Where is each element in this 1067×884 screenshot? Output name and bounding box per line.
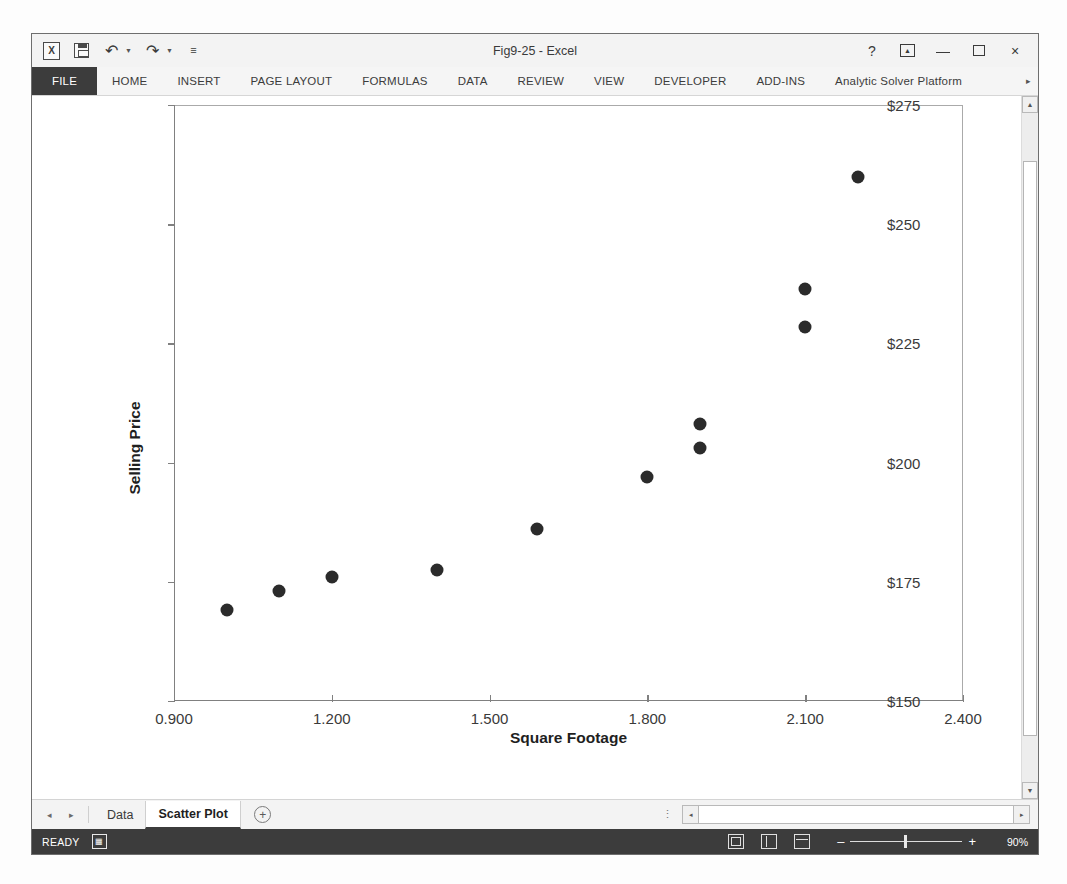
vertical-scroll-track[interactable]	[1022, 113, 1038, 782]
worksheet-area: Selling Price Square Footage $150$175$20…	[32, 96, 1038, 799]
normal-view-icon[interactable]	[728, 834, 744, 849]
ribbon-tab-insert[interactable]: INSERT	[162, 67, 235, 95]
zoom-slider-thumb[interactable]	[904, 835, 907, 848]
zoom-level-label[interactable]: 90%	[1002, 836, 1028, 848]
zoom-in-button[interactable]: +	[968, 835, 976, 848]
ribbon-tab-analytic-solver-platform[interactable]: Analytic Solver Platform	[820, 67, 977, 95]
undo-dropdown-icon[interactable]: ▼	[125, 47, 132, 54]
x-axis-tick-label: 1.800	[629, 710, 667, 727]
scatter-point[interactable]	[530, 523, 543, 536]
ribbon-tab-formulas[interactable]: FORMULAS	[347, 67, 443, 95]
scroll-up-icon[interactable]: ▲	[1022, 96, 1038, 113]
undo-icon[interactable]: ↶	[102, 41, 121, 60]
ribbon-tab-data[interactable]: DATA	[443, 67, 503, 95]
y-axis-tick-mark	[168, 343, 175, 344]
x-axis-tick-label: 0.900	[155, 710, 193, 727]
next-sheet-icon[interactable]: ▸	[60, 804, 82, 826]
y-axis-tick-label: $200	[887, 454, 1021, 471]
ribbon-overflow-icon[interactable]: ▸	[1019, 67, 1038, 95]
maximize-icon[interactable]	[971, 43, 987, 59]
sheet-tab-bar: ◂ ▸ Data Scatter Plot + ⋮ ◂ ▸	[32, 799, 1038, 829]
ribbon-tab-view[interactable]: VIEW	[579, 67, 639, 95]
page-layout-view-icon[interactable]	[761, 834, 777, 849]
x-axis-line	[174, 700, 963, 701]
y-axis-tick-label: $175	[887, 573, 1021, 590]
x-axis-tick-mark	[647, 695, 648, 702]
y-axis-tick-label: $275	[887, 97, 1021, 114]
redo-icon[interactable]: ↷	[143, 41, 162, 60]
chart-sheet[interactable]: Selling Price Square Footage $150$175$20…	[32, 96, 1021, 799]
x-axis-tick-mark	[174, 695, 175, 702]
zoom-slider-track[interactable]	[850, 841, 962, 842]
x-axis-title: Square Footage	[174, 729, 963, 747]
ribbon-tab-add-ins[interactable]: ADD-INS	[741, 67, 820, 95]
tab-divider	[88, 806, 89, 823]
x-axis-tick-label: 1.200	[313, 710, 351, 727]
y-axis-tick-mark	[168, 582, 175, 583]
scatter-chart[interactable]: Selling Price Square Footage $150$175$20…	[32, 96, 1021, 799]
redo-dropdown-icon[interactable]: ▼	[166, 47, 173, 54]
scroll-left-icon[interactable]: ◂	[682, 805, 699, 824]
plot-area	[174, 105, 963, 701]
y-axis-title: Selling Price	[126, 401, 144, 494]
y-axis-tick-label: $150	[887, 693, 1021, 710]
sheet-tab-data[interactable]: Data	[95, 801, 145, 829]
x-axis-tick-mark	[332, 695, 333, 702]
x-axis-tick-label: 1.500	[471, 710, 509, 727]
excel-window: X ↶ ▼ ↷ ▼ ≡ Fig9-25 - Excel ? × FILE HOM…	[31, 33, 1039, 855]
scroll-down-icon[interactable]: ▼	[1022, 782, 1038, 799]
scatter-point[interactable]	[799, 282, 812, 295]
y-axis-tick-mark	[168, 463, 175, 464]
scatter-point[interactable]	[641, 470, 654, 483]
y-axis-tick-mark	[168, 224, 175, 225]
screenshot-root: X ↶ ▼ ↷ ▼ ≡ Fig9-25 - Excel ? × FILE HOM…	[0, 0, 1067, 884]
horizontal-scroll-track[interactable]	[699, 805, 1013, 824]
quick-access-toolbar: X ↶ ▼ ↷ ▼ ≡	[32, 41, 203, 60]
x-axis-tick-label: 2.100	[786, 710, 824, 727]
scatter-point[interactable]	[851, 170, 864, 183]
ribbon-tab-strip: FILE HOME INSERT PAGE LAYOUT FORMULAS DA…	[32, 67, 1038, 96]
help-icon[interactable]: ?	[864, 43, 880, 59]
x-axis-tick-label: 2.400	[944, 710, 982, 727]
save-icon[interactable]	[72, 41, 91, 60]
sheet-tab-scatter-plot[interactable]: Scatter Plot	[145, 801, 240, 829]
x-axis-tick-mark	[490, 695, 491, 702]
ribbon-tab-file[interactable]: FILE	[32, 67, 97, 95]
y-axis-line	[174, 105, 175, 701]
ribbon-tab-home[interactable]: HOME	[97, 67, 162, 95]
horizontal-scrollbar[interactable]: ◂ ▸	[682, 805, 1030, 824]
page-break-preview-icon[interactable]	[794, 834, 810, 849]
y-axis-tick-label: $250	[887, 216, 1021, 233]
ribbon-display-options-icon[interactable]	[900, 44, 915, 57]
zoom-out-button[interactable]: –	[837, 835, 844, 848]
close-icon[interactable]: ×	[1007, 43, 1023, 59]
scatter-point[interactable]	[273, 585, 286, 598]
scatter-point[interactable]	[799, 320, 812, 333]
plus-icon: +	[254, 806, 271, 823]
minimize-icon[interactable]	[935, 43, 951, 59]
x-axis-tick-mark	[805, 695, 806, 702]
ribbon-tab-review[interactable]: REVIEW	[503, 67, 580, 95]
scatter-point[interactable]	[694, 418, 707, 431]
zoom-slider[interactable]: – +	[837, 835, 976, 848]
sheet-tab-more-icon[interactable]: ⋮	[662, 808, 682, 821]
view-controls: – + 90%	[728, 834, 1028, 849]
ribbon-tab-developer[interactable]: DEVELOPER	[639, 67, 741, 95]
ribbon-tab-page-layout[interactable]: PAGE LAYOUT	[236, 67, 348, 95]
scatter-point[interactable]	[431, 563, 444, 576]
y-axis-tick-mark	[168, 105, 175, 106]
scatter-point[interactable]	[325, 571, 338, 584]
customize-quick-access-toolbar-icon[interactable]: ≡	[184, 41, 203, 60]
excel-logo-icon[interactable]: X	[42, 41, 61, 60]
previous-sheet-icon[interactable]: ◂	[38, 804, 60, 826]
x-axis-tick-mark	[963, 695, 964, 702]
new-sheet-icon[interactable]: +	[250, 802, 276, 828]
vertical-scroll-thumb[interactable]	[1023, 161, 1037, 736]
vertical-scrollbar[interactable]: ▲ ▼	[1021, 96, 1038, 799]
record-macro-icon[interactable]: ▦	[92, 834, 107, 849]
scatter-point[interactable]	[694, 442, 707, 455]
scroll-right-icon[interactable]: ▸	[1013, 805, 1030, 824]
title-bar: X ↶ ▼ ↷ ▼ ≡ Fig9-25 - Excel ? ×	[32, 34, 1038, 67]
scatter-point[interactable]	[220, 604, 233, 617]
window-controls: ? ×	[864, 43, 1038, 59]
